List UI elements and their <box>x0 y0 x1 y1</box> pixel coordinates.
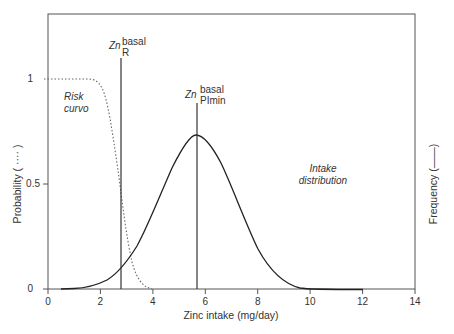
zn-plmin-label-sup: basal <box>200 84 224 95</box>
risk-curve-label-line2: curvo <box>64 103 89 114</box>
intake-distribution-label-line2: distribution <box>299 175 348 186</box>
x-tick-10: 10 <box>305 296 317 307</box>
chart-canvas: 0 2 4 6 8 10 12 14 Zinc intake (mg/day) … <box>0 0 454 334</box>
y-axis-label-right: Frequency (——) <box>427 144 439 225</box>
zn-r-label-sup: basal <box>122 36 146 47</box>
y-tick-0: 0 <box>27 283 33 294</box>
zn-plmin-label-main: Zn <box>184 89 197 100</box>
zn-plmin-label-sub: PImin <box>200 95 226 106</box>
zn-r-label-sub: R <box>122 47 129 58</box>
risk-curve-label-line1: Risk <box>64 91 84 102</box>
x-axis: 0 2 4 6 8 10 12 14 Zinc intake (mg/day) <box>45 289 421 321</box>
x-tick-2: 2 <box>98 296 104 307</box>
risk-curve <box>44 79 152 289</box>
zn-r-label-main: Zn <box>108 40 121 51</box>
x-tick-12: 12 <box>357 296 369 307</box>
intake-distribution-curve <box>61 135 363 290</box>
x-tick-4: 4 <box>150 296 156 307</box>
x-axis-label: Zinc intake (mg/day) <box>183 309 278 321</box>
y-tick-0-5: 0.5 <box>26 178 40 189</box>
intake-distribution-label-line1: Intake <box>309 163 337 174</box>
x-tick-8: 8 <box>255 296 261 307</box>
y-tick-1: 1 <box>27 73 33 84</box>
x-tick-6: 6 <box>203 296 209 307</box>
x-tick-0: 0 <box>45 296 51 307</box>
y-axis-label: Probability ( ···· ) <box>11 145 23 224</box>
plot-frame <box>48 14 415 289</box>
x-tick-14: 14 <box>409 296 421 307</box>
